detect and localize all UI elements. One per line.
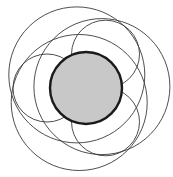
circle-pinwheel-diagram: [0, 0, 173, 177]
central-shaded-circle: [50, 52, 122, 124]
